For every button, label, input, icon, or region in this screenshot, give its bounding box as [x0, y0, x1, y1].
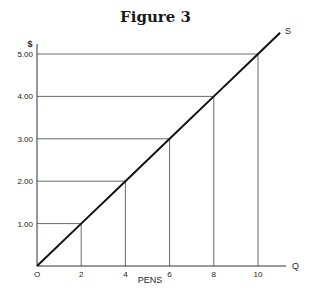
x-tick-label: 4 [123, 270, 128, 279]
y-tick-label: 5.00 [17, 50, 33, 59]
series-label: S [285, 26, 291, 36]
x-tick-label: 8 [212, 270, 217, 279]
x-tick-label: 6 [167, 270, 172, 279]
axes [37, 44, 286, 266]
y-axis-label: $ [27, 39, 32, 49]
y-tick-label: 2.00 [17, 177, 33, 186]
x-tick-label: O [34, 270, 40, 279]
x-axis-label: PENS [138, 275, 163, 285]
y-tick-label: 4.00 [17, 92, 33, 101]
x-axis-end-label: Q [292, 261, 299, 271]
supply-chart: 1.002.003.004.005.00O246810 $ Q PENS S [0, 0, 311, 304]
y-tick-label: 3.00 [17, 135, 33, 144]
x-tick-label: 10 [254, 270, 263, 279]
y-tick-label: 1.00 [17, 220, 33, 229]
x-tick-label: 2 [79, 270, 84, 279]
series-s [37, 33, 280, 266]
supply-line [37, 33, 280, 266]
